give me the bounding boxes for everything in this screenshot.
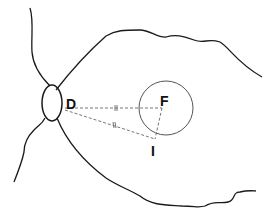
- vessel-upper-left: [30, 8, 50, 86]
- retina-diagram: D F I: [0, 0, 273, 216]
- label-fovea: F: [160, 93, 169, 109]
- optic-disc: [42, 85, 62, 121]
- label-point-I: I: [151, 143, 155, 159]
- dashed-line-DI: [65, 110, 155, 139]
- label-disc: D: [66, 96, 76, 112]
- vessel-upper-right: [56, 30, 262, 90]
- tick-mark-DI: [113, 122, 116, 128]
- vessel-lower-right: [57, 118, 256, 207]
- vessel-lower-left: [14, 118, 45, 182]
